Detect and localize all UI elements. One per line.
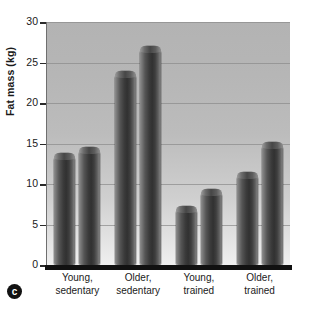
bar — [79, 147, 100, 265]
y-axis-tick-label: 15 — [14, 137, 38, 149]
y-axis-tick-label: 20 — [14, 96, 38, 108]
bar — [176, 206, 197, 265]
bar-cylinder-cap — [176, 206, 197, 213]
category-label-line1: Young, — [62, 272, 93, 283]
bar-cylinder-cap — [54, 153, 75, 160]
panel-label-badge: c — [7, 284, 22, 299]
gridline — [47, 103, 290, 104]
category-label-line1: Older, — [246, 272, 273, 283]
plot-area — [47, 22, 290, 265]
gridline — [47, 144, 290, 145]
bar — [140, 46, 161, 265]
y-axis-tick-label: 30 — [14, 15, 38, 27]
bar-cylinder-cap — [262, 142, 283, 149]
gridline — [47, 22, 290, 23]
bar-cylinder-cap — [237, 172, 258, 179]
bar-cylinder-cap — [201, 189, 222, 196]
y-axis-tick-label: 25 — [14, 56, 38, 68]
bar-cylinder-cap — [79, 147, 100, 154]
x-axis-line — [45, 265, 292, 270]
category-label-line1: Young, — [183, 272, 214, 283]
category-label-line1: Older, — [125, 272, 152, 283]
y-axis-tick-label: 0 — [14, 258, 38, 270]
gridline — [47, 63, 290, 64]
bar-cylinder-cap — [140, 46, 161, 53]
figure-panel-c: Fat mass (kg) 051015202530 Young,sedenta… — [0, 0, 310, 312]
y-axis-tick-label: 10 — [14, 177, 38, 189]
y-axis-line — [46, 22, 47, 265]
category-label-line2: trained — [215, 285, 305, 298]
bar — [237, 172, 258, 265]
bar — [201, 189, 222, 265]
y-axis-tick-label: 5 — [14, 218, 38, 230]
bar — [115, 71, 136, 265]
bar — [262, 142, 283, 265]
bar — [54, 153, 75, 265]
bar-cylinder-cap — [115, 71, 136, 78]
x-axis-category-label: Older,trained — [215, 272, 305, 297]
